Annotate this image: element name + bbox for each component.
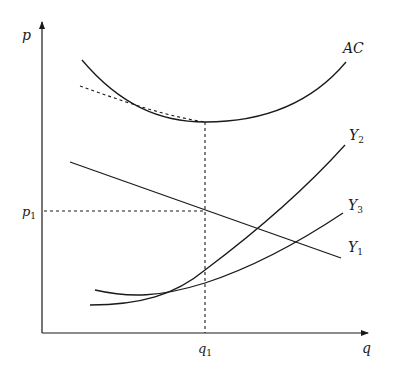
y-axis-label: p: [22, 27, 31, 43]
y1-label: Y1: [348, 239, 363, 257]
y3-label: Y3: [348, 197, 363, 215]
ac-label: AC: [341, 40, 364, 56]
y2-curve: [90, 145, 345, 305]
q1-label: q1: [198, 341, 212, 358]
x-axis-label: q: [362, 340, 371, 356]
ac-envelope-dashed-curve: [80, 86, 205, 122]
y2-label: Y2: [349, 127, 364, 145]
cost-curve-diagram: p q p1 q1 AC Y1 Y2 Y3: [0, 0, 393, 375]
ac-curve: [82, 60, 346, 122]
p1-label: p1: [22, 204, 36, 221]
y3-curve: [95, 213, 343, 295]
